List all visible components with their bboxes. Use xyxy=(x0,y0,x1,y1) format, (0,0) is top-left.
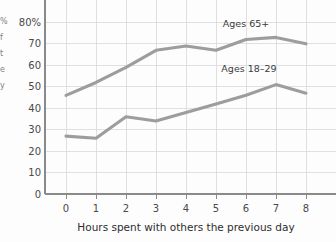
x-tick-3: 3 xyxy=(153,203,159,214)
series-annotation-ages-65-plus: Ages 65+ xyxy=(223,18,269,29)
series-annotation-ages-18-29: Ages 18–29 xyxy=(221,63,276,74)
x-axis-title: Hours spent with others the previous day xyxy=(77,221,294,233)
cropped-label-char-4: y xyxy=(0,81,5,90)
y-tick-20: 20 xyxy=(28,146,41,157)
cropped-label-char-0: % xyxy=(0,17,8,26)
x-tick-2: 2 xyxy=(123,203,129,214)
cropped-label-char-3: e xyxy=(0,65,5,74)
y-tick-80: 80% xyxy=(19,17,41,28)
y-tick-10: 10 xyxy=(28,167,41,178)
x-tick-7: 7 xyxy=(273,203,279,214)
x-tick-8: 8 xyxy=(303,203,309,214)
y-tick-0: 0 xyxy=(35,189,41,200)
y-tick-40: 40 xyxy=(28,103,41,114)
chart-container: % f t e y xyxy=(0,0,336,242)
x-tick-1: 1 xyxy=(93,203,99,214)
x-tick-0: 0 xyxy=(63,203,69,214)
line-chart: % f t e y xyxy=(0,0,336,242)
x-tick-4: 4 xyxy=(183,203,189,214)
chart-background xyxy=(0,0,336,242)
y-tick-60: 60 xyxy=(28,60,41,71)
y-tick-70: 70 xyxy=(28,38,41,49)
y-tick-30: 30 xyxy=(28,124,41,135)
x-tick-5: 5 xyxy=(213,203,219,214)
x-tick-6: 6 xyxy=(243,203,249,214)
cropped-label-char-2: t xyxy=(0,49,3,58)
cropped-label-char-1: f xyxy=(0,33,3,42)
y-tick-50: 50 xyxy=(28,81,41,92)
